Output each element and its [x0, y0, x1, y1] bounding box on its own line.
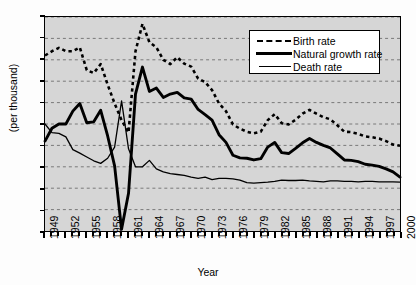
x-tick-mark: [134, 232, 135, 236]
x-tick-mark: [337, 232, 339, 238]
legend-item-natural-growth-rate: Natural growth rate: [255, 47, 375, 60]
x-tick-mark: [71, 232, 72, 236]
x-tick-mark: [365, 232, 366, 236]
x-tick-mark: [120, 232, 121, 236]
x-tick-mark: [351, 232, 352, 236]
x-tick-mark: [127, 232, 129, 238]
x-tick-mark: [92, 232, 93, 236]
legend-label: Natural growth rate: [293, 48, 382, 60]
x-tick-mark: [211, 232, 213, 238]
x-tick-mark: [190, 232, 192, 238]
x-tick-mark: [267, 232, 268, 236]
x-tick-mark: [43, 232, 45, 238]
x-tick-mark: [113, 232, 114, 236]
x-tick-mark: [393, 232, 394, 236]
x-tick-mark: [85, 232, 87, 238]
x-tick-mark: [162, 232, 163, 236]
x-axis-title: Year: [0, 266, 416, 278]
x-tick-mark: [239, 232, 240, 236]
x-tick-mark: [155, 232, 156, 236]
x-tick-mark: [50, 232, 51, 236]
legend-item-death-rate: Death rate: [255, 60, 375, 73]
x-tick-mark: [400, 232, 402, 238]
x-tick-mark: [57, 232, 58, 236]
x-tick-mark: [183, 232, 184, 236]
x-tick-mark: [246, 232, 247, 236]
legend-label: Birth rate: [293, 35, 336, 47]
x-tick-mark: [253, 232, 255, 238]
x-tick-mark: [204, 232, 205, 236]
x-tick-mark: [323, 232, 324, 236]
x-tick-mark: [225, 232, 226, 236]
legend-label: Death rate: [293, 61, 342, 73]
x-tick-mark: [106, 232, 108, 238]
x-tick-mark: [330, 232, 331, 236]
x-tick-mark: [141, 232, 142, 236]
x-tick-mark: [281, 232, 282, 236]
y-axis-title: (per thousand): [7, 33, 19, 163]
x-tick-mark: [99, 232, 100, 236]
x-tick-mark: [295, 232, 297, 238]
x-tick-mark: [309, 232, 310, 236]
x-tick-mark: [274, 232, 276, 238]
x-tick-mark: [302, 232, 303, 236]
x-tick-mark: [64, 232, 66, 238]
thin-line-key: [255, 61, 293, 73]
x-tick-mark: [358, 232, 360, 238]
legend-item-birth-rate: Birth rate: [255, 34, 375, 47]
x-tick-mark: [344, 232, 345, 236]
x-tick-mark: [148, 232, 150, 238]
x-tick-mark: [260, 232, 261, 236]
x-tick-mark: [288, 232, 289, 236]
x-tick-mark: [316, 232, 318, 238]
x-tick-mark: [169, 232, 171, 238]
x-tick-mark: [218, 232, 219, 236]
dashed-line-key: [255, 35, 293, 47]
thick-line-key: [255, 48, 293, 60]
x-tick-mark: [232, 232, 234, 238]
x-tick-mark: [176, 232, 177, 236]
chart-figure: 454035302520151050–5 (per thousand) 1949…: [0, 0, 416, 285]
x-tick-mark: [386, 232, 387, 236]
x-tick-mark: [78, 232, 79, 236]
x-tick-mark: [197, 232, 198, 236]
x-tick-mark: [379, 232, 381, 238]
legend: Birth rate Natural growth rate Death rat…: [249, 30, 380, 74]
x-tick-label: 2000: [405, 216, 416, 239]
x-tick-mark: [372, 232, 373, 236]
